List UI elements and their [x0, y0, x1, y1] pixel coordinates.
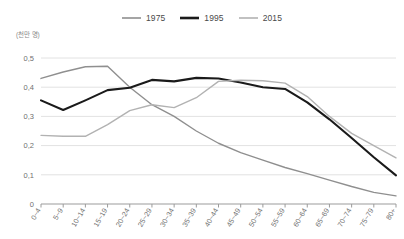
svg-text:60~64: 60~64 — [291, 206, 309, 228]
chart-plot-area: 00,10,20,30,40,5 0~45~910~1415~1920~2425… — [0, 0, 404, 239]
svg-text:0,4: 0,4 — [24, 83, 34, 92]
svg-text:75~79: 75~79 — [358, 206, 376, 228]
x-tick-marks — [41, 204, 396, 208]
y-tick-labels: 00,10,20,30,40,5 — [24, 54, 34, 209]
svg-text:80+: 80+ — [384, 207, 398, 222]
svg-text:20~24: 20~24 — [114, 206, 132, 228]
data-series-lines — [41, 66, 396, 196]
svg-text:55~59: 55~59 — [269, 206, 287, 228]
svg-text:70~74: 70~74 — [335, 206, 353, 228]
svg-text:30~34: 30~34 — [158, 206, 176, 228]
svg-text:50~54: 50~54 — [247, 206, 265, 228]
svg-text:0,2: 0,2 — [24, 141, 34, 150]
svg-text:0,3: 0,3 — [24, 112, 34, 121]
svg-text:0,1: 0,1 — [24, 171, 34, 180]
svg-text:40~44: 40~44 — [202, 206, 220, 228]
svg-text:0,5: 0,5 — [24, 54, 34, 63]
svg-text:5~9: 5~9 — [51, 207, 65, 222]
x-tick-labels: 0~45~910~1415~1920~2425~2930~3435~3940~4… — [29, 206, 398, 228]
population-by-age-line-chart: 1975 1995 2015 (천만 명) 00,10,20,30,40,5 0… — [0, 0, 404, 239]
svg-text:45~49: 45~49 — [225, 206, 243, 228]
y-gridlines — [41, 58, 396, 175]
svg-text:25~29: 25~29 — [136, 206, 154, 228]
svg-text:15~19: 15~19 — [91, 206, 109, 228]
svg-text:35~39: 35~39 — [180, 206, 198, 228]
svg-text:65~69: 65~69 — [313, 206, 331, 228]
svg-text:10~14: 10~14 — [69, 206, 87, 228]
